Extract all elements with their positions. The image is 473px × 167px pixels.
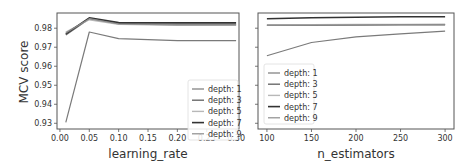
x-tick-label: 200 [348, 134, 363, 143]
y-tick-label: 0.98 [34, 24, 52, 33]
y-tick-label: 0.94 [34, 100, 52, 109]
x-tick-label: 0.15 [139, 134, 157, 143]
x-tick-label: 300 [437, 134, 452, 143]
legend-label: depth: 3 [208, 96, 242, 105]
x-tick-label: 0.05 [80, 134, 98, 143]
legend-label: depth: 3 [284, 80, 318, 89]
legend: depth: 1depth: 3depth: 5depth: 7depth: 9 [188, 80, 242, 140]
figure: MCV score 0.930.940.950.960.970.980.000.… [0, 0, 473, 167]
x-tick-label: 0.00 [51, 134, 69, 143]
y-tick-label: 0.93 [34, 119, 52, 128]
chart-panel-1: 0.930.940.950.960.970.980.000.050.100.15… [34, 13, 245, 161]
legend-label: depth: 9 [208, 130, 242, 139]
legend-label: depth: 5 [208, 107, 242, 116]
legend-label: depth: 1 [208, 85, 242, 94]
x-axis-label: n_estimators [317, 147, 395, 161]
y-axis-label: MCV score [17, 41, 31, 104]
x-axis-label: learning_rate [108, 147, 187, 161]
series-line [267, 25, 445, 26]
y-tick-label: 0.96 [34, 62, 52, 71]
legend-label: depth: 7 [208, 119, 242, 128]
x-tick-label: 0.10 [110, 134, 128, 143]
x-tick-label: 150 [304, 134, 319, 143]
y-tick-label: 0.95 [34, 81, 52, 90]
legend-label: depth: 9 [284, 114, 318, 123]
x-tick-label: 250 [393, 134, 408, 143]
legend: depth: 1depth: 3depth: 5depth: 7depth: 9 [264, 64, 318, 124]
legend-label: depth: 1 [284, 69, 318, 78]
y-tick-label: 0.97 [34, 43, 52, 52]
x-tick-label: 0.20 [168, 134, 186, 143]
legend-label: depth: 5 [284, 91, 318, 100]
legend-label: depth: 7 [284, 103, 318, 112]
chart-panel-2: 100150200250300n_estimatorsdepth: 1depth… [255, 13, 454, 161]
x-tick-label: 100 [259, 134, 274, 143]
